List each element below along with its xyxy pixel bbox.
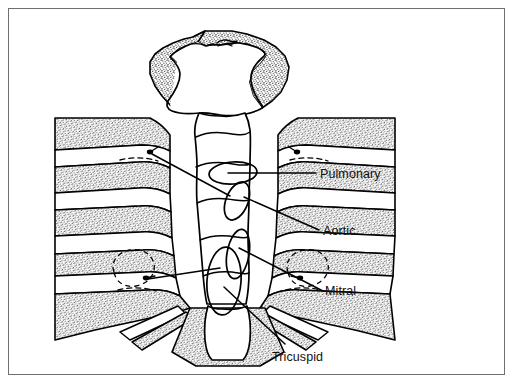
- label-mitral: Mitral: [325, 284, 356, 298]
- label-pulmonary: Pulmonary: [320, 167, 381, 181]
- manubrium-sterni: [150, 31, 289, 116]
- anatomy-illustration: [0, 0, 515, 387]
- figure-page: Pulmonary Aortic Mitral Tricuspid: [0, 0, 515, 387]
- label-tricuspid: Tricuspid: [272, 350, 323, 364]
- xiphoid-process: [172, 306, 284, 366]
- label-aortic: Aortic: [323, 224, 356, 238]
- sternum-body: [195, 113, 251, 304]
- left-ribs: [55, 118, 194, 350]
